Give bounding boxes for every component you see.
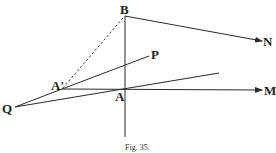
figure-caption: Fig. 35. (125, 143, 150, 152)
line-A-prime-P (62, 56, 149, 89)
label-A: A (115, 89, 125, 104)
label-Q: Q (2, 101, 12, 116)
dashed-line-BA-prime (62, 18, 123, 89)
label-A-prime: A' (51, 78, 64, 93)
line-A-prime-M-arrow (62, 89, 262, 90)
line-BN-arrow (125, 16, 262, 41)
label-N: N (263, 34, 273, 49)
label-B: B (120, 2, 129, 17)
label-M: M (264, 83, 276, 98)
label-P: P (151, 47, 159, 62)
geometry-diagram: B N P A' A M Q Fig. 35. (0, 0, 276, 153)
